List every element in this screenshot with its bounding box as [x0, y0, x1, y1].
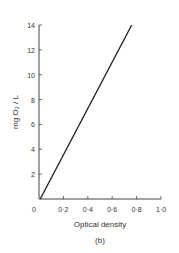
- x-axis: 00·20·40·60·81·0: [32, 196, 166, 213]
- panel-label: (b): [95, 236, 105, 245]
- x-tick-label: 0·4: [83, 206, 93, 213]
- x-tick-label: 0: [32, 206, 36, 213]
- x-tick-label: 0·2: [58, 206, 68, 213]
- y-axis-label: mg O₂ / L: [11, 95, 20, 129]
- series-line: [40, 25, 132, 199]
- y-tick-label: 6: [31, 121, 35, 128]
- x-tick-label: 0·6: [107, 206, 117, 213]
- y-axis: 2468101214: [27, 22, 42, 199]
- chart: 2468101214 00·20·40·60·81·0 Optical dens…: [0, 0, 179, 253]
- x-tick-label: 0·8: [132, 206, 142, 213]
- y-tick-label: 10: [27, 72, 35, 79]
- x-tick-label: 1·0: [156, 206, 166, 213]
- y-tick-label: 2: [31, 171, 35, 178]
- x-axis-label: Optical density: [74, 220, 126, 229]
- y-tick-label: 4: [31, 146, 35, 153]
- y-tick-label: 12: [27, 47, 35, 54]
- data-series: [40, 25, 132, 199]
- y-tick-label: 8: [31, 97, 35, 104]
- y-tick-label: 14: [27, 22, 35, 29]
